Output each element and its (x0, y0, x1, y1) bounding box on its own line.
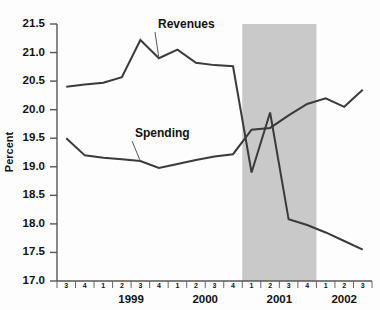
y-tick-label: 18.5 (23, 188, 46, 200)
series-label-revenues: Revenues (158, 17, 215, 31)
y-tick-label: 17.0 (23, 274, 45, 286)
quarter-tick-label: 2 (120, 282, 124, 289)
quarter-tick-label: 2 (342, 282, 346, 289)
series-labels-group: RevenuesSpending (132, 17, 215, 161)
quarter-tick-label: 1 (324, 282, 328, 289)
y-axis-title: Percent (3, 131, 15, 172)
quarter-tick-label: 3 (361, 282, 365, 289)
quarter-tick-label: 2 (268, 282, 272, 289)
y-tick-label: 21.5 (23, 17, 46, 29)
y-tick-label: 20.0 (23, 103, 45, 115)
y-tick-label: 18.0 (23, 217, 45, 229)
quarter-tick-label: 2 (194, 282, 198, 289)
y-tick-label: 17.5 (23, 245, 46, 257)
year-label: 1999 (118, 293, 144, 305)
y-tick-label: 19.5 (23, 131, 46, 143)
quarter-tick-label: 3 (64, 282, 68, 289)
axes-group (57, 24, 372, 281)
chart-container: 17.017.518.018.519.019.520.020.521.021.5… (0, 0, 380, 310)
quarter-tick-label: 3 (138, 282, 142, 289)
quarter-tick-label: 3 (287, 282, 291, 289)
year-label: 2001 (267, 293, 293, 305)
year-label: 2000 (192, 293, 218, 305)
series-label-leader-spending (132, 141, 140, 161)
quarter-tick-label: 1 (250, 282, 254, 289)
recession-band (242, 24, 316, 281)
line-chart: 17.017.518.018.519.019.520.020.521.021.5… (0, 0, 380, 310)
series-label-spending: Spending (135, 126, 190, 140)
data-series-group (66, 40, 362, 250)
year-label: 2002 (331, 293, 357, 305)
x-axis-ticks-group: 341234123412341231999200020012002 (57, 281, 372, 305)
quarter-tick-label: 4 (305, 282, 309, 289)
quarter-tick-label: 3 (213, 282, 217, 289)
series-line-spending (66, 90, 362, 168)
quarter-tick-label: 4 (157, 282, 161, 289)
quarter-tick-label: 1 (175, 282, 179, 289)
quarter-tick-label: 4 (231, 282, 235, 289)
series-line-revenues (66, 40, 362, 250)
y-tick-label: 21.0 (23, 46, 45, 58)
quarter-tick-label: 1 (101, 282, 105, 289)
y-axis-ticks-group: 17.017.518.018.519.019.520.020.521.021.5 (23, 17, 57, 286)
quarter-tick-label: 4 (83, 282, 87, 289)
y-tick-label: 19.0 (23, 160, 45, 172)
recession-shading-group (242, 24, 316, 281)
y-tick-label: 20.5 (23, 74, 46, 86)
